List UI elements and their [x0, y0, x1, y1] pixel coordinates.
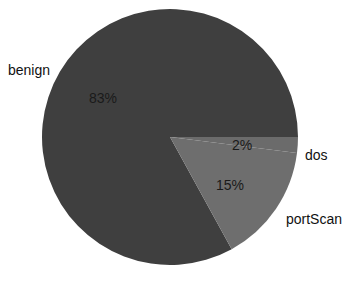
pie-chart-canvas: [0, 0, 349, 285]
pie-chart: 83% 2% 15% benign dos portScan: [0, 0, 349, 285]
pie-category-label-portscan: portScan: [286, 212, 342, 226]
pie-value-label-portscan: 15%: [216, 178, 244, 192]
pie-value-label-dos: 2%: [232, 138, 252, 152]
pie-category-label-dos: dos: [305, 148, 328, 162]
pie-category-label-benign: benign: [8, 63, 50, 77]
pie-value-label-benign: 83%: [89, 91, 117, 105]
